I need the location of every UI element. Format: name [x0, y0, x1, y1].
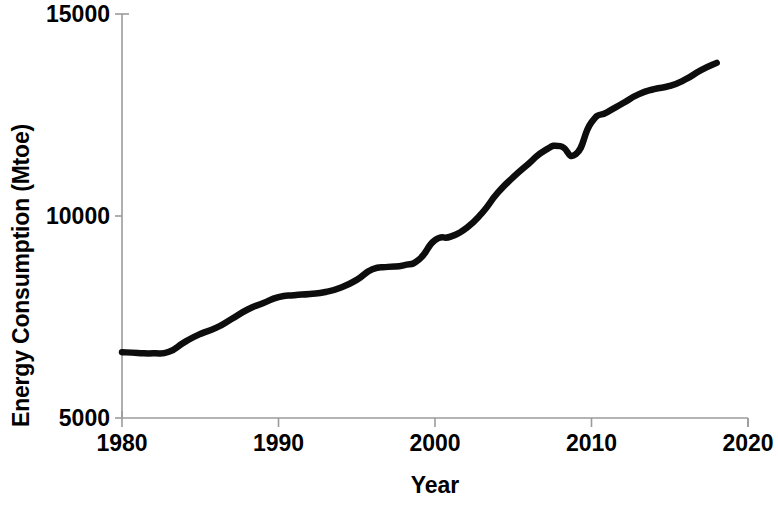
data-series-line	[122, 63, 717, 354]
axis-tick-marks	[115, 14, 748, 427]
axis-lines	[122, 14, 748, 418]
